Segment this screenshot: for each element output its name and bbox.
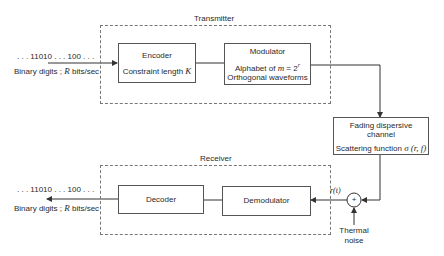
modulator-alphabet: Alphabet of m = 2r [225, 60, 310, 74]
decoder-block: Decoder [118, 185, 204, 214]
encoder-constraint: Constraint length K [119, 66, 195, 77]
encoder-constraint-var: K [185, 66, 191, 76]
channel-block: Fading dispersive channel Scattering fun… [333, 117, 429, 155]
channel-line2: channel [334, 130, 428, 140]
decoder-title: Decoder [119, 195, 203, 205]
encoder-constraint-prefix: Constraint length [123, 67, 186, 76]
modulator-block: Modulator Alphabet of m = 2r Orthogonal … [224, 43, 311, 85]
transmitter-label: Transmitter [194, 14, 234, 24]
channel-scattering-prefix: Scattering function [336, 144, 404, 153]
input-rate-suffix: bits/sec [70, 67, 99, 76]
channel-scattering: Scattering function σ (r, f) [334, 143, 428, 154]
encoder-block: Encoder Constraint length K [118, 43, 196, 83]
demodulator-block: Demodulator [222, 186, 311, 216]
noise-label-line1: Thermal [334, 226, 374, 236]
noise-label-line2: noise [334, 236, 374, 246]
output-rate-label: Binary digits ; R bits/sec [14, 203, 99, 214]
input-rate-label: Binary digits ; R bits/sec [14, 66, 99, 77]
encoder-title: Encoder [119, 51, 195, 61]
summer-plus-icon: + [349, 195, 359, 205]
modulator-waveforms: Orthogonal waveforms [225, 73, 310, 83]
demodulator-title: Demodulator [223, 196, 310, 206]
channel-scattering-func: σ (r, f) [404, 143, 426, 153]
modulator-alphabet-eq: = 2 [284, 64, 298, 73]
input-rate-prefix: Binary digits ; [14, 67, 64, 76]
output-rate-suffix: bits/sec [70, 204, 99, 213]
input-bit-stream: . . . 11010 . . . 100 . . . [17, 52, 94, 62]
output-rate-prefix: Binary digits ; [14, 204, 64, 213]
modulator-title: Modulator [225, 47, 310, 57]
channel-summer-arrow [362, 154, 380, 200]
modulator-alphabet-prefix: Alphabet of [235, 64, 278, 73]
receiver-label: Receiver [200, 154, 232, 164]
received-signal-label: r(t) [330, 186, 341, 196]
modulator-alphabet-exp: r [298, 62, 300, 68]
output-bit-stream: . . . 11010 . . . 100 . . . [17, 185, 94, 195]
